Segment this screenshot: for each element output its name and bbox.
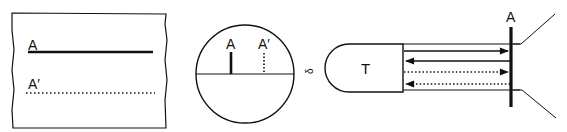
label-a: A — [226, 36, 236, 52]
lower-flare — [513, 90, 556, 118]
diagram-canvas: A A′ A A′ δ T A — [0, 0, 567, 132]
label-a-prime: A′ — [28, 76, 40, 92]
panel-3-telescope: δ T A — [304, 9, 556, 118]
telescope-label: T — [361, 60, 370, 77]
upper-flare — [513, 14, 555, 44]
panel-1-card: A A′ — [12, 13, 167, 128]
label-a-prime: A′ — [258, 36, 270, 52]
card-border — [12, 13, 167, 128]
target-label: A — [506, 9, 516, 25]
eyepiece-icon: δ — [304, 68, 315, 74]
label-a: A — [28, 37, 38, 53]
panel-2-view: A A′ — [196, 25, 294, 123]
